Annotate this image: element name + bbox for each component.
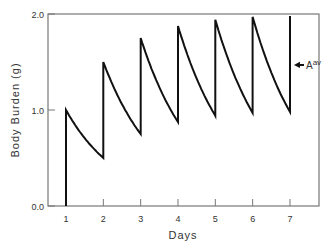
y-tick-label: 2.0 xyxy=(31,10,44,20)
x-axis-ticks: 1234567 xyxy=(63,199,292,224)
x-tick-label: 5 xyxy=(213,214,218,224)
body-burden-chart: 0.01.02.0 1234567 Aav Days Body Burden (… xyxy=(0,0,330,251)
x-tick-label: 4 xyxy=(175,214,180,224)
x-tick-label: 1 xyxy=(63,214,68,224)
x-tick-label: 7 xyxy=(287,214,292,224)
x-tick-label: 2 xyxy=(101,214,106,224)
y-axis-label: Body Burden (g) xyxy=(9,62,21,157)
x-axis-label: Days xyxy=(168,229,197,241)
y-axis-ticks: 0.01.02.0 xyxy=(31,10,55,212)
arrow-left-icon xyxy=(294,62,304,68)
y-tick-label: 1.0 xyxy=(31,106,44,116)
y-tick-label: 0.0 xyxy=(31,202,44,212)
average-annotation: Aav xyxy=(294,58,321,71)
x-tick-label: 3 xyxy=(138,214,143,224)
x-tick-label: 6 xyxy=(250,214,255,224)
body-burden-line xyxy=(66,16,290,206)
